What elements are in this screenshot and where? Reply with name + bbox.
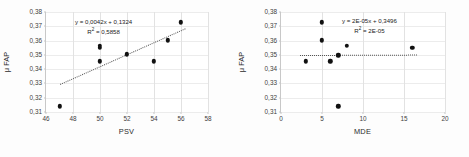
x-tick-label: 15 [400,116,407,122]
data-point [98,59,102,63]
trendline-equation-psv: y = 0,0042x + 0,1324R2 = 0,5858 [75,18,132,37]
y-tickmark [44,83,46,84]
y-tickmark [44,112,46,113]
x-tickmark [208,112,209,114]
v-gridline [404,12,405,112]
equation-line: y = 2E-05x + 0,3496 [342,17,397,26]
y-tick-label: 0,35 [265,52,277,58]
x-axis-label-mde: MDE [280,127,445,136]
y-tickmark [44,12,46,13]
r-squared-line: R2 = 2E-05 [342,26,397,36]
data-point [320,20,324,24]
x-tickmark [73,112,74,114]
y-axis-label-mde: μ FAP [237,52,246,72]
y-tickmark [44,54,46,55]
y-tickmark [44,26,46,27]
x-tickmark [127,112,128,114]
y-tickmark [279,26,281,27]
x-tickmark [181,112,182,114]
y-tick-label: 0,33 [30,80,42,86]
data-point [336,53,340,57]
y-tickmark [279,12,281,13]
trendline-equation-mde: y = 2E-05x + 0,3496R2 = 2E-05 [342,17,397,36]
y-tick-label: 0,36 [30,37,42,43]
x-tick-label: 52 [123,116,130,122]
y-tickmark [279,54,281,55]
equation-line: y = 0,0042x + 0,1324 [75,18,132,27]
y-tick-label: 0,34 [30,66,42,72]
y-tickmark [279,83,281,84]
x-tick-label: 0 [279,116,283,122]
data-point [344,44,348,48]
y-tick-label: 0,37 [265,23,277,29]
data-point [165,38,169,42]
figure-container: 464850525456580,310,320,330,340,350,360,… [0,0,469,157]
x-tick-label: 50 [96,116,103,122]
y-tickmark [44,40,46,41]
v-gridline [181,12,182,112]
chart-mde: 051015200,310,320,330,340,350,360,370,38… [234,0,469,157]
y-tickmark [279,69,281,70]
x-tickmark [404,112,405,114]
y-tickmark [279,40,281,41]
y-tickmark [44,97,46,98]
y-tick-label: 0,33 [265,80,277,86]
data-point [152,59,156,63]
v-gridline [445,12,446,112]
y-tickmark [279,112,281,113]
y-tickmark [44,69,46,70]
x-tick-label: 48 [69,116,76,122]
x-tickmark [154,112,155,114]
y-tick-label: 0,38 [30,9,42,15]
y-tick-label: 0,37 [30,23,42,29]
data-point [179,20,183,24]
y-tick-label: 0,34 [265,66,277,72]
trendline [300,55,417,56]
data-point [336,104,340,108]
v-gridline [73,12,74,112]
x-tick-label: 56 [177,116,184,122]
x-tick-label: 20 [441,116,448,122]
x-tick-label: 5 [320,116,324,122]
y-tick-label: 0,36 [265,37,277,43]
x-tickmark [363,112,364,114]
y-tick-label: 0,31 [265,109,277,115]
v-gridline [322,12,323,112]
x-tick-label: 46 [42,116,49,122]
y-tickmark [279,97,281,98]
data-point [303,59,307,63]
x-tick-label: 58 [204,116,211,122]
y-tick-label: 0,32 [265,95,277,101]
x-tickmark [445,112,446,114]
data-point [410,46,414,50]
x-tickmark [322,112,323,114]
y-axis-label-psv: μ FAP [2,52,11,72]
x-tick-label: 10 [359,116,366,122]
v-gridline [208,12,209,112]
y-tick-label: 0,32 [30,95,42,101]
y-tick-label: 0,38 [265,9,277,15]
chart-psv: 464850525456580,310,320,330,340,350,360,… [0,0,234,157]
x-tickmark [100,112,101,114]
data-point [328,59,332,63]
x-tick-label: 54 [150,116,157,122]
x-axis-label-psv: PSV [45,127,208,136]
data-point [57,104,61,108]
y-tick-label: 0,35 [30,52,42,58]
y-tick-label: 0,31 [30,109,42,115]
data-point [320,38,324,42]
r-squared-line: R2 = 0,5858 [75,27,132,37]
